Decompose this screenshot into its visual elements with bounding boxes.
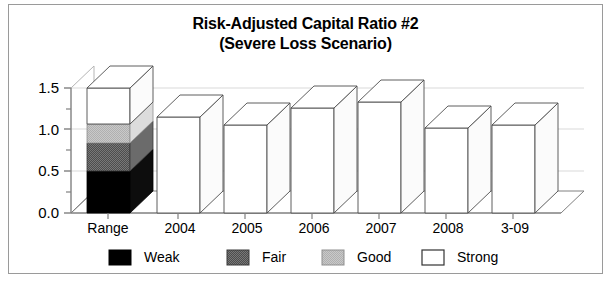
legend-item-weak[interactable]: Weak <box>109 249 181 265</box>
xtick-label-2008: 2008 <box>432 220 463 236</box>
xtick-label-2006: 2006 <box>298 220 329 236</box>
xtick-label-2007: 2007 <box>365 220 396 236</box>
bar-2006[interactable] <box>291 86 357 213</box>
legend-label-weak: Weak <box>144 249 181 265</box>
legend-swatch-weak <box>109 250 131 265</box>
bar-2005[interactable] <box>224 103 290 213</box>
legend-label-fair: Fair <box>262 249 286 265</box>
bar-3-09[interactable] <box>492 103 558 213</box>
y-axis-labels: 0.0 0.5 1.0 1.5 <box>38 79 59 221</box>
legend-swatch-good <box>322 250 344 265</box>
legend-label-good: Good <box>357 249 391 265</box>
chart-legend: Weak Fair Good Strong <box>109 249 498 265</box>
xtick-label-range: Range <box>87 220 128 236</box>
legend-item-good[interactable]: Good <box>322 249 391 265</box>
legend-item-strong[interactable]: Strong <box>422 249 498 265</box>
xtick-label-2004: 2004 <box>164 220 195 236</box>
bar-2004[interactable] <box>157 95 223 213</box>
bar-chart-svg: 0.0 0.5 1.0 1.5 <box>9 5 604 275</box>
chart-plot-area: 0.0 0.5 1.0 1.5 <box>9 5 604 275</box>
ytick-label-3: 1.5 <box>38 79 59 96</box>
legend-swatch-strong <box>422 250 444 265</box>
legend-swatch-fair <box>227 250 249 265</box>
legend-item-fair[interactable]: Fair <box>227 249 286 265</box>
x-axis-ticks <box>108 213 513 219</box>
legend-label-strong: Strong <box>457 249 498 265</box>
bar-range-stacked[interactable] <box>87 66 153 213</box>
chart-figure: Risk-Adjusted Capital Ratio #2 (Severe L… <box>8 4 603 274</box>
ytick-label-1: 0.5 <box>38 162 59 179</box>
bar-2007[interactable] <box>358 80 424 213</box>
xtick-label-2005: 2005 <box>231 220 262 236</box>
x-axis-labels: Range 2004 2005 2006 2007 2008 3-09 <box>87 220 529 236</box>
ytick-label-2: 1.0 <box>38 121 59 138</box>
bar-2008[interactable] <box>425 106 491 213</box>
ytick-label-0: 0.0 <box>38 204 59 221</box>
xtick-label-3-09: 3-09 <box>501 220 529 236</box>
y-axis-ticks <box>64 88 71 213</box>
